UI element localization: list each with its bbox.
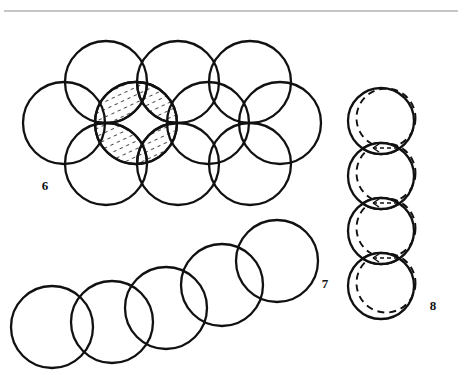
figure-plate: 6 7 8 (0, 0, 462, 385)
figure-7-label: 7 (322, 276, 329, 291)
figure-7-circle-5 (236, 220, 318, 302)
figure-7-circle-4 (181, 244, 263, 326)
figure-7 (11, 220, 318, 368)
diagram-canvas: 6 7 8 (0, 0, 462, 385)
figure-7-circle-2 (71, 281, 153, 363)
figure-7-circle-3 (125, 267, 207, 349)
figure-8-dashed-circle-1 (357, 89, 416, 148)
figure-6 (23, 41, 321, 205)
figure-8 (348, 88, 416, 319)
figure-6-circle-4 (23, 82, 105, 164)
figure-7-circle-1 (11, 286, 93, 368)
figure-8-label: 8 (430, 298, 437, 313)
figure-6-label: 6 (42, 178, 49, 193)
